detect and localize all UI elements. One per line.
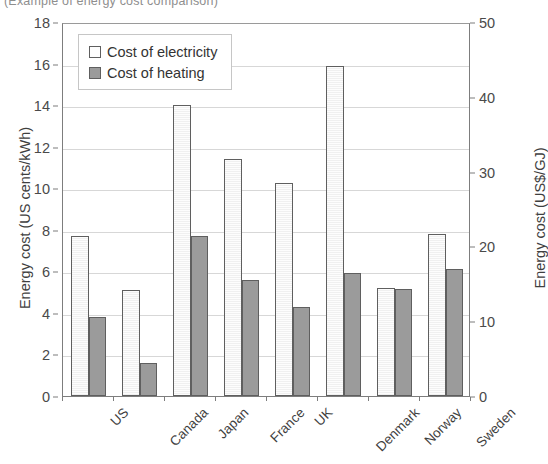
legend-label-electricity: Cost of electricity <box>107 44 217 60</box>
bar-electricity <box>224 159 242 396</box>
bar-heating <box>89 317 107 396</box>
x-axis-label-us: US <box>107 405 131 429</box>
bar-heating <box>344 273 362 396</box>
y-axis-left-tick-label: 16 <box>34 57 50 73</box>
y-axis-right-tick-mark <box>470 322 475 323</box>
bar-electricity <box>326 66 344 396</box>
y-axis-right-tick-label: 20 <box>479 239 495 255</box>
y-axis-left-tick-label: 10 <box>34 181 50 197</box>
x-axis-tick-mark <box>266 397 267 401</box>
x-axis-tick-mark <box>62 397 63 401</box>
bar-electricity <box>122 290 140 396</box>
y-axis-right-tick-mark <box>470 247 475 248</box>
y-axis-left-tick-label: 12 <box>34 140 50 156</box>
gridline <box>63 232 469 233</box>
bar-electricity <box>71 236 89 396</box>
y-axis-left-tick-mark <box>53 23 58 24</box>
bar-electricity <box>173 105 191 396</box>
chart-legend: Cost of electricity Cost of heating <box>78 34 232 90</box>
y-axis-left-tick-label: 4 <box>42 306 50 322</box>
y-axis-right-tick-label: 30 <box>479 165 495 181</box>
bar-heating <box>446 269 464 396</box>
y-axis-left-tick-mark <box>53 272 58 273</box>
x-axis-label-japan: Japan <box>214 405 251 442</box>
x-axis-label-uk: UK <box>311 405 335 429</box>
bar-electricity <box>377 288 395 396</box>
x-axis-tick-mark <box>419 397 420 401</box>
bar-heating <box>293 307 311 396</box>
y-axis-right-tick-label: 40 <box>479 90 495 106</box>
y-axis-left-title: Energy cost (US cents/kWh) <box>17 108 33 328</box>
y-axis-left-tick-label: 18 <box>34 15 50 31</box>
bar-electricity <box>275 183 293 396</box>
y-axis-right-title: Energy cost (US$/GJ) <box>532 108 548 328</box>
y-axis-left-tick-label: 14 <box>34 98 50 114</box>
bar-heating <box>140 363 158 396</box>
x-axis-tick-mark <box>164 397 165 401</box>
y-axis-left-tick-label: 8 <box>42 223 50 239</box>
gridline <box>63 149 469 150</box>
y-axis-right-tick-label: 50 <box>479 15 495 31</box>
bar-heating <box>242 280 260 396</box>
x-axis-label-france: France <box>267 405 307 445</box>
y-axis-right-tick-label: 0 <box>479 389 487 405</box>
legend-item-heating: Cost of heating <box>89 62 217 83</box>
legend-label-heating: Cost of heating <box>107 65 205 81</box>
y-axis-right-tick-mark <box>470 97 475 98</box>
y-axis-left-tick-mark <box>53 313 58 314</box>
x-axis-label-denmark: Denmark <box>373 405 422 454</box>
y-axis-left-tick-mark <box>53 355 58 356</box>
bar-electricity <box>428 234 446 396</box>
bar-heating <box>395 289 413 396</box>
x-axis-tick-mark <box>317 397 318 401</box>
x-axis-label-sweden: Sweden <box>473 405 518 450</box>
y-axis-left-tick-mark <box>53 189 58 190</box>
y-axis-right-ticks: 01020304050 <box>470 23 514 397</box>
y-axis-left-tick-mark <box>53 230 58 231</box>
y-axis-left-tick-label: 6 <box>42 264 50 280</box>
x-axis-tick-mark <box>470 397 471 401</box>
x-axis-label-canada: Canada <box>166 405 210 449</box>
y-axis-left-tick-mark <box>53 397 58 398</box>
y-axis-left-tick-mark <box>53 147 58 148</box>
clipped-chart-title: (Example of energy cost comparison) <box>4 0 404 8</box>
bar-heating <box>191 236 209 396</box>
legend-swatch-electricity-icon <box>89 46 101 58</box>
x-axis-tick-mark <box>368 397 369 401</box>
x-axis-tick-mark <box>113 397 114 401</box>
x-axis-label-norway: Norway <box>421 405 464 448</box>
legend-item-electricity: Cost of electricity <box>89 41 217 62</box>
y-axis-right-tick-label: 10 <box>479 314 495 330</box>
y-axis-left-tick-label: 0 <box>42 389 50 405</box>
x-axis-labels: USCanadaJapanFranceUKDenmarkNorwaySweden <box>62 397 470 464</box>
y-axis-left-tick-mark <box>53 106 58 107</box>
legend-swatch-heating-icon <box>89 67 101 79</box>
x-axis-tick-mark <box>215 397 216 401</box>
y-axis-left-tick-label: 2 <box>42 347 50 363</box>
gridline <box>63 273 469 274</box>
y-axis-left-tick-mark <box>53 64 58 65</box>
gridline <box>63 190 469 191</box>
y-axis-right-tick-mark <box>470 172 475 173</box>
y-axis-right-tick-mark <box>470 23 475 24</box>
gridline <box>63 107 469 108</box>
